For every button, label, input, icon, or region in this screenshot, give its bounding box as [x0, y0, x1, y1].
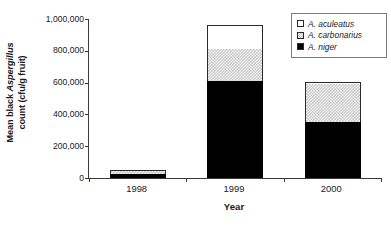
- x-tick-label-1999: 1999: [185, 184, 282, 193]
- bar-1999: [207, 25, 263, 178]
- legend-label-a-carbonarius: A. carbonarius: [308, 31, 362, 39]
- bar-1999-segment-a-niger: [207, 81, 263, 178]
- y-tick-label-600000: 600,000: [30, 78, 84, 87]
- y-tick-mark-600000: [85, 83, 89, 84]
- x-axis-title: Year: [88, 202, 380, 212]
- bar-1998-segment-a-niger: [110, 174, 166, 178]
- legend-swatch-white-icon: [297, 20, 304, 27]
- x-tick-label-1998: 1998: [88, 184, 185, 193]
- bar-1999-segment-a-aculeatus: [207, 25, 263, 49]
- y-tick-mark-800000: [85, 51, 89, 52]
- y-tick-label-0: 0: [30, 174, 84, 183]
- y-tick-label-400000: 400,000: [30, 110, 84, 119]
- y-tick-label-800000: 800,000: [30, 46, 84, 55]
- x-tick-label-2000: 2000: [283, 184, 380, 193]
- y-tick-mark-400000: [85, 114, 89, 115]
- legend-item-a-aculeatus: A. aculeatus: [297, 18, 381, 30]
- chart-figure: Mean black Aspergillus count (cfu/g frui…: [0, 0, 391, 226]
- x-tick-mark-end: [381, 178, 382, 182]
- legend-item-a-niger: A. niger: [297, 41, 381, 53]
- x-tick-mark-1: [186, 178, 187, 182]
- y-tick-mark-200000: [85, 146, 89, 147]
- y-tick-mark-1000000: [85, 19, 89, 20]
- legend-label-a-niger: A. niger: [308, 43, 337, 51]
- y-tick-label-1000000: 1,000,000: [30, 15, 84, 24]
- y-tick-label-200000: 200,000: [30, 142, 84, 151]
- bar-2000-segment-a-niger: [305, 122, 361, 178]
- legend-item-a-carbonarius: A. carbonarius: [297, 30, 381, 42]
- legend-label-a-aculeatus: A. aculeatus: [308, 20, 354, 28]
- bar-2000: [305, 82, 361, 178]
- y-axis-tick-labels: 1,000,000 800,000 600,000 400,000 200,00…: [30, 0, 84, 226]
- bar-1999-segment-a-carbonarius: [207, 49, 263, 81]
- chart-legend: A. aculeatus A. carbonarius A. niger: [291, 13, 387, 58]
- y-axis-title-italic-taxon: Aspergillus: [6, 43, 16, 92]
- legend-swatch-black-icon: [297, 43, 304, 50]
- x-tick-mark-start: [89, 178, 90, 182]
- y-axis-title: Mean black Aspergillus count (cfu/g frui…: [0, 0, 34, 185]
- bar-2000-segment-a-carbonarius: [305, 84, 361, 121]
- y-axis-title-part-2: count (cfu/g fruit): [17, 55, 27, 129]
- y-axis-title-part-1: Mean black: [6, 91, 16, 142]
- bar-1998: [110, 170, 166, 178]
- legend-swatch-gray-icon: [297, 32, 304, 39]
- x-tick-mark-2: [284, 178, 285, 182]
